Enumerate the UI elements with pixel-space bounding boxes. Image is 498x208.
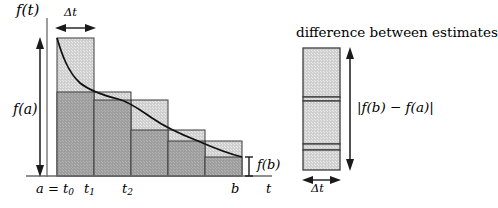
- delta-t-arrow-top: [55, 24, 96, 32]
- delta-t-label-bottom: Δt: [311, 183, 324, 195]
- tick-label-b: b: [231, 182, 239, 195]
- f-b-label: f(b): [257, 158, 280, 171]
- tick-label-a: a = t0: [36, 182, 74, 197]
- f-a-label: f(a): [13, 102, 37, 116]
- x-axis-label: t: [266, 182, 271, 195]
- difference-arrow: [346, 47, 354, 171]
- delta-t-label-top: Δt: [64, 7, 77, 19]
- tick-label-t2: t2: [122, 182, 133, 197]
- y-axis-label: f(t): [16, 3, 39, 18]
- tick-label-t1: t1: [84, 182, 95, 197]
- difference-bracket-label: |f(b) − f(a)|: [357, 101, 434, 115]
- f-b-bracket: [245, 157, 253, 176]
- difference-bar: [303, 48, 340, 170]
- difference-panel-title: difference between estimates: [296, 24, 498, 40]
